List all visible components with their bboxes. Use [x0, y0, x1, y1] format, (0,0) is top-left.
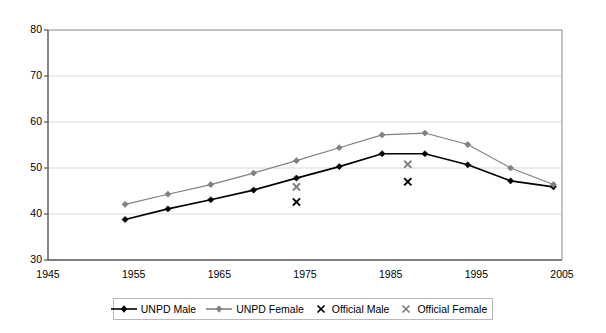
data-point [122, 201, 128, 207]
y-tick-label: 80 [4, 23, 42, 35]
y-tick-label: 60 [4, 115, 42, 127]
plot-area [0, 0, 606, 333]
line-chart: 807060504030 194519551965197519851995200… [0, 0, 606, 333]
data-point [251, 187, 257, 193]
data-series-layer [122, 130, 557, 223]
data-point [508, 178, 514, 184]
y-tick-label: 30 [4, 253, 42, 265]
data-point [293, 158, 299, 164]
data-point [293, 175, 299, 181]
data-point [422, 130, 428, 136]
data-point [465, 162, 471, 168]
legend-item-official-female: Official Female [398, 303, 496, 315]
y-tick-label: 40 [4, 207, 42, 219]
legend-line-diamond-icon [205, 303, 233, 315]
gridlines [48, 76, 562, 214]
data-point [208, 181, 214, 187]
data-point [379, 132, 385, 138]
legend-item-unpd-male: UNPD Male [110, 303, 205, 315]
x-tick-label: 1995 [451, 268, 501, 280]
legend-label-unpd-female: UNPD Female [233, 303, 313, 315]
legend-item-unpd-female: UNPD Female [205, 303, 313, 315]
data-point [122, 216, 128, 222]
data-point [422, 151, 428, 157]
series-official-male [293, 178, 412, 205]
legend-x-marker-icon [398, 303, 414, 315]
data-point [165, 191, 171, 197]
x-tick-label: 1975 [280, 268, 330, 280]
x-tick-label: 1965 [194, 268, 244, 280]
x-tick-label: 1985 [366, 268, 416, 280]
legend-item-official-male: Official Male [313, 303, 399, 315]
data-point [251, 170, 257, 176]
legend-label-official-male: Official Male [329, 303, 399, 315]
data-point [508, 165, 514, 171]
data-point [379, 151, 385, 157]
x-tick-label: 2005 [537, 268, 587, 280]
data-point [208, 197, 214, 203]
series-unpd-male [122, 151, 557, 223]
legend-line-diamond-icon [110, 303, 138, 315]
x-tick-label: 1955 [109, 268, 159, 280]
y-tick-label: 50 [4, 161, 42, 173]
data-point [336, 145, 342, 151]
data-point [465, 141, 471, 147]
chart-legend: UNPD Male UNPD Female Official Male [113, 298, 493, 320]
series-official-female [293, 161, 412, 191]
axis-frame [48, 30, 562, 260]
legend-label-official-female: Official Female [414, 303, 496, 315]
y-tick-label: 70 [4, 69, 42, 81]
legend-label-unpd-male: UNPD Male [138, 303, 205, 315]
data-point [165, 206, 171, 212]
data-point [336, 164, 342, 170]
x-tick-label: 1945 [23, 268, 73, 280]
legend-x-marker-icon [313, 303, 329, 315]
